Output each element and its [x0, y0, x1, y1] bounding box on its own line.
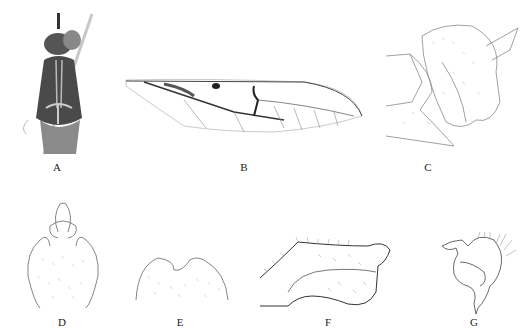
panel-e-sternite: [134, 256, 230, 302]
habitus-illustration: [10, 8, 105, 156]
panel-label-f: F: [325, 316, 331, 328]
terminalia-lateral-illustration: [382, 12, 528, 152]
gonostylus-detail-illustration: [438, 226, 522, 318]
panel-label-c: C: [424, 161, 431, 173]
panel-g-gonostylus-detail: [438, 226, 522, 318]
panel-label-g: G: [470, 316, 478, 328]
panel-b-wing: [124, 76, 366, 140]
panel-label-e: E: [177, 316, 184, 328]
panel-f-gonostylus: [258, 232, 406, 312]
gonostylus-illustration: [258, 232, 406, 312]
panel-a-habitus: [10, 8, 105, 156]
panel-label-b: B: [240, 161, 247, 173]
wing-illustration: [124, 76, 366, 140]
panel-d-terminalia-ventral: [22, 202, 104, 310]
panel-label-a: A: [53, 161, 61, 173]
sternite-illustration: [134, 256, 230, 302]
panel-c-terminalia-lateral: [382, 12, 528, 152]
terminalia-ventral-illustration: [22, 202, 104, 310]
panel-label-d: D: [58, 316, 66, 328]
